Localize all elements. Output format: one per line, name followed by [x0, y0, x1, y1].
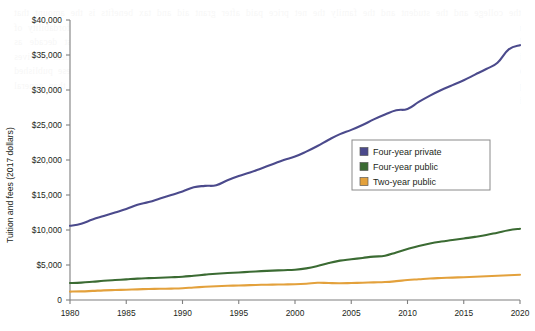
chart-svg: 0$5,000$10,000$15,000$20,000$25,000$30,0…	[0, 0, 535, 331]
y-axis-tick-label: $10,000	[32, 225, 63, 235]
x-axis: 198019851990199520002005201020152020	[61, 300, 530, 318]
legend-item-label[interactable]: Four-year public	[373, 162, 439, 172]
x-axis-tick-label: 1980	[61, 308, 80, 318]
x-axis-tick-label: 1985	[117, 308, 136, 318]
y-axis-title: Tuition and fees (2017 dollars)	[5, 127, 15, 243]
y-axis-tick-label: $35,000	[32, 50, 63, 60]
legend-item-label[interactable]: Two-year public	[373, 177, 437, 187]
y-axis-tick-label: $25,000	[32, 120, 63, 130]
x-axis-tick-label: 1990	[173, 308, 192, 318]
y-axis-tick-label: 0	[57, 295, 62, 305]
x-axis-tick-label: 2010	[398, 308, 417, 318]
y-axis-tick-label: $40,000	[32, 15, 63, 25]
legend-swatch	[360, 163, 368, 171]
y-axis-tick-label: $30,000	[32, 85, 63, 95]
y-axis-tick-label: $5,000	[36, 260, 62, 270]
y-axis-tick-label: $15,000	[32, 190, 63, 200]
legend-swatch	[360, 178, 368, 186]
tuition-and-fees-line-chart: 0$5,000$10,000$15,000$20,000$25,000$30,0…	[0, 0, 535, 331]
x-axis-tick-label: 2020	[511, 308, 530, 318]
y-axis: 0$5,000$10,000$15,000$20,000$25,000$30,0…	[32, 15, 70, 305]
y-axis-tick-label: $20,000	[32, 155, 63, 165]
x-axis-tick-label: 1995	[229, 308, 248, 318]
legend-item-label[interactable]: Four-year private	[373, 147, 442, 157]
x-axis-tick-label: 2000	[286, 308, 305, 318]
x-axis-tick-label: 2015	[454, 308, 473, 318]
legend-swatch	[360, 148, 368, 156]
x-axis-tick-label: 2005	[342, 308, 361, 318]
chart-legend[interactable]: Four-year privateFour-year publicTwo-yea…	[352, 140, 490, 190]
